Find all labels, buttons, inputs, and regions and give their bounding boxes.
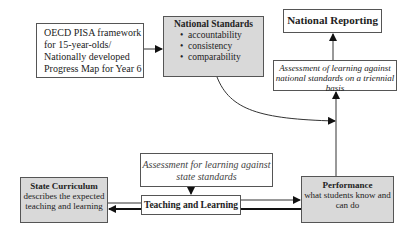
state-curriculum-box: State Curriculum describes the expected … (20, 177, 108, 223)
performance-text: what students know and can do (302, 190, 393, 210)
oecd-line-1: OECD PISA framework (44, 27, 143, 39)
national-reporting-box: National Reporting (283, 9, 382, 33)
national-standards-title: National Standards (174, 19, 263, 30)
oecd-pisa-framework-box: OECD PISA framework for 15-year-olds/ Na… (36, 23, 144, 78)
oecd-line-2: for 15-year-olds/ (44, 39, 143, 51)
performance-title: Performance (302, 180, 393, 190)
national-standards-box: National Standards accountability consis… (163, 16, 264, 77)
bullet-comparability: comparability (180, 52, 263, 63)
national-standards-list: accountability consistency comparability (174, 30, 263, 63)
assessment-national-box: Assessment of learning against national … (273, 60, 397, 91)
teaching-learning-box: Teaching and Learning (141, 195, 241, 215)
state-curriculum-title: State Curriculum (21, 181, 107, 191)
oecd-line-4: Progress Map for Year 6 (44, 63, 143, 75)
performance-box: Performance what students know and can d… (301, 176, 394, 223)
oecd-line-3: Nationally developed (44, 51, 143, 63)
state-curriculum-text: describes the expected teaching and lear… (21, 191, 107, 211)
bullet-accountability: accountability (180, 30, 263, 41)
bullet-consistency: consistency (180, 41, 263, 52)
assessment-state-box: Assessment for learning against state st… (140, 153, 273, 187)
